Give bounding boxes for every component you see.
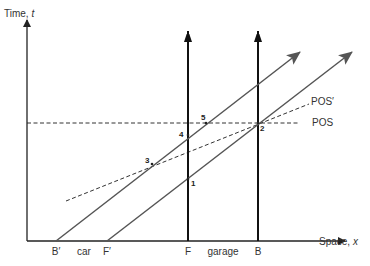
time-axis-label: Time, t: [4, 8, 35, 19]
event-labels: 12345: [145, 113, 265, 188]
simultaneity-lines: POSPOS′: [27, 96, 334, 201]
pos-label: POS: [312, 117, 333, 128]
event-point-1: [187, 178, 190, 181]
event-point-2: [257, 122, 260, 125]
event-point-5: [205, 122, 208, 125]
tick-labels: B′carF′FgarageB: [52, 246, 262, 257]
garage-walls: [188, 31, 258, 241]
car-worldlines: [56, 52, 352, 241]
tick-label: garage: [207, 246, 239, 257]
event-label-4: 4: [179, 130, 184, 139]
event-label-3: 3: [145, 156, 150, 165]
tick-label: B′: [52, 246, 61, 257]
pos-prime-label: POS′: [311, 96, 334, 107]
car-back-worldline: [56, 52, 300, 241]
event-label-2: 2: [260, 124, 265, 133]
tick-label: F′: [103, 246, 111, 257]
spacetime-diagram: POSPOS′ 12345 B′carF′FgarageB Time, t Sp…: [0, 0, 370, 266]
tick-label: F: [185, 246, 191, 257]
tick-label: B: [255, 246, 262, 257]
event-label-1: 1: [191, 179, 196, 188]
car-front-worldline: [107, 52, 352, 241]
tick-label: car: [77, 246, 92, 257]
space-axis-label: Space, x: [319, 236, 359, 247]
event-label-5: 5: [201, 113, 206, 122]
event-point-4: [187, 134, 190, 137]
event-point-3: [151, 163, 154, 166]
